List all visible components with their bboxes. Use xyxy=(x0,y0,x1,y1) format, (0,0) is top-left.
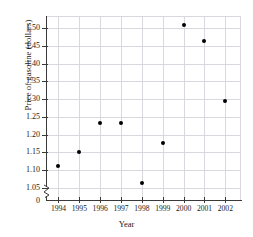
gridline-vertical xyxy=(225,16,226,200)
x-axis-title: Year xyxy=(0,219,253,229)
gridline-vertical xyxy=(58,16,59,200)
gridline-horizontal xyxy=(47,46,241,47)
gridline-vertical xyxy=(240,16,241,200)
x-axis-tick xyxy=(100,197,101,203)
y-axis-tick-label: 1.45 xyxy=(0,41,40,50)
x-axis-tick xyxy=(163,197,164,203)
y-axis-tick-label: 1.35 xyxy=(0,76,40,85)
x-axis-tick xyxy=(184,197,185,203)
y-axis-tick xyxy=(42,152,48,153)
data-point xyxy=(77,150,81,154)
x-axis-tick xyxy=(121,197,122,203)
y-axis-tick xyxy=(42,99,48,100)
x-axis-tick-label: 2002 xyxy=(210,204,240,213)
data-point xyxy=(182,23,186,27)
gridline-vertical xyxy=(204,16,205,200)
gridline-vertical xyxy=(142,16,143,200)
gridline-horizontal xyxy=(47,16,241,17)
y-axis-tick-label: 0 xyxy=(0,196,40,205)
y-axis-tick xyxy=(42,188,48,189)
y-axis-tick xyxy=(42,170,48,171)
y-axis-tick-label: 1.30 xyxy=(0,94,40,103)
x-axis-tick xyxy=(225,197,226,203)
x-axis-tick xyxy=(58,197,59,203)
y-axis-tick xyxy=(42,81,48,82)
y-axis-tick-label: 1.05 xyxy=(0,183,40,192)
gridline-vertical xyxy=(121,16,122,200)
gridline-horizontal xyxy=(47,117,241,118)
y-axis-tick xyxy=(42,135,48,136)
x-axis-tick xyxy=(204,197,205,203)
plot-area xyxy=(47,16,241,200)
x-axis-tick xyxy=(142,197,143,203)
gridline-vertical xyxy=(163,16,164,200)
y-axis-tick-label: 1.50 xyxy=(0,23,40,32)
gridline-vertical xyxy=(100,16,101,200)
x-axis-line xyxy=(46,200,242,201)
gridline-horizontal xyxy=(47,135,241,136)
gridline-vertical xyxy=(79,16,80,200)
gridline-horizontal xyxy=(47,81,241,82)
y-axis-tick-label: 1.40 xyxy=(0,59,40,68)
y-axis-tick xyxy=(42,117,48,118)
x-axis-tick xyxy=(79,197,80,203)
y-axis-tick xyxy=(42,28,48,29)
y-axis-tick-label: 1.20 xyxy=(0,130,40,139)
gridline-horizontal xyxy=(47,152,241,153)
y-axis-tick-label: 1.10 xyxy=(0,165,40,174)
gridline-horizontal xyxy=(47,188,241,189)
y-axis-tick-label: 1.15 xyxy=(0,147,40,156)
y-axis-tick xyxy=(42,46,48,47)
gridline-vertical xyxy=(184,16,185,200)
gridline-horizontal xyxy=(47,170,241,171)
scatter-chart-figure: Price of gasoline (dollars) 01.051.101.1… xyxy=(0,0,253,237)
y-axis-tick xyxy=(42,64,48,65)
y-axis-tick-label: 1.25 xyxy=(0,112,40,121)
gridline-horizontal xyxy=(47,99,241,100)
gridline-horizontal xyxy=(47,28,241,29)
y-axis-title: Price of gasoline (dollars) xyxy=(23,0,33,145)
gridline-horizontal xyxy=(47,64,241,65)
axis-break-icon xyxy=(42,184,54,198)
y-axis-line xyxy=(46,16,47,187)
